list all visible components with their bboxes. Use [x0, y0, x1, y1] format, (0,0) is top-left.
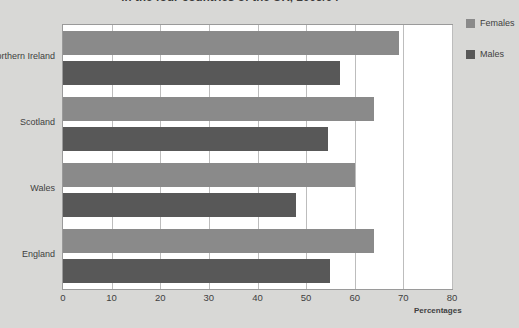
legend-label-males: Males: [480, 49, 504, 59]
x-tick-20: 20: [155, 292, 166, 303]
chart-legend: Females Males: [466, 18, 519, 80]
x-tick-30: 30: [204, 292, 215, 303]
y-axis-label-northern-ireland: Northern Ireland: [0, 51, 55, 61]
bar-northern-ireland-males: [63, 61, 340, 85]
x-tick-0: 0: [60, 292, 65, 303]
y-axis-label-wales: Wales: [30, 183, 55, 193]
x-tick-40: 40: [252, 292, 263, 303]
bar-wales-females: [63, 163, 355, 187]
bar-scotland-males: [63, 127, 328, 151]
chart-title: in the four countries of the UK, 2003/04: [40, 0, 420, 3]
bar-england-females: [63, 229, 374, 253]
y-axis-category-labels: Northern IrelandScotlandWalesEngland: [0, 24, 58, 290]
legend-swatch-females-icon: [466, 19, 475, 28]
gridline: [452, 25, 453, 289]
x-tick-50: 50: [301, 292, 312, 303]
legend-item-females[interactable]: Females: [466, 18, 519, 28]
bars-layer: [63, 25, 452, 289]
x-tick-60: 60: [349, 292, 360, 303]
legend-item-males[interactable]: Males: [466, 49, 519, 59]
legend-label-females: Females: [480, 18, 515, 28]
x-tick-10: 10: [106, 292, 117, 303]
y-axis-label-england: England: [22, 249, 55, 259]
bar-wales-males: [63, 193, 296, 217]
y-axis-label-scotland: Scotland: [20, 117, 55, 127]
plot-area: [62, 24, 453, 290]
x-tick-80: 80: [447, 292, 458, 303]
bar-scotland-females: [63, 97, 374, 121]
bar-northern-ireland-females: [63, 31, 399, 55]
bar-england-males: [63, 259, 330, 283]
x-axis-tick-labels: 01020304050607080: [0, 292, 507, 306]
x-tick-70: 70: [398, 292, 409, 303]
legend-swatch-males-icon: [466, 50, 475, 59]
x-axis-label: Percentages: [414, 306, 462, 315]
